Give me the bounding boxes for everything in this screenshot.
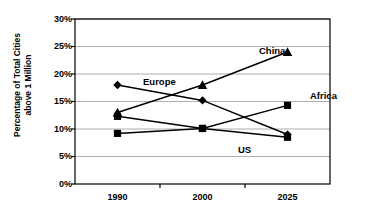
- data-point-us-1990: [114, 113, 121, 120]
- series-label-africa: Africa: [310, 91, 337, 101]
- plot-area: [0, 0, 370, 217]
- data-point-europe-2000: [198, 96, 206, 104]
- data-point-africa-1990: [114, 130, 121, 137]
- chart-container: Percentage of Total Cities above 1 Milli…: [0, 0, 370, 217]
- series-label-us: US: [238, 145, 251, 155]
- data-point-europe-1990: [113, 81, 121, 89]
- data-point-us-2025: [284, 134, 291, 141]
- data-point-africa-2025: [284, 102, 291, 109]
- data-point-africa-2000: [199, 125, 206, 132]
- data-point-china-2000: [198, 80, 208, 89]
- series-label-europe: Europe: [143, 77, 176, 87]
- series-label-china: China: [259, 46, 285, 56]
